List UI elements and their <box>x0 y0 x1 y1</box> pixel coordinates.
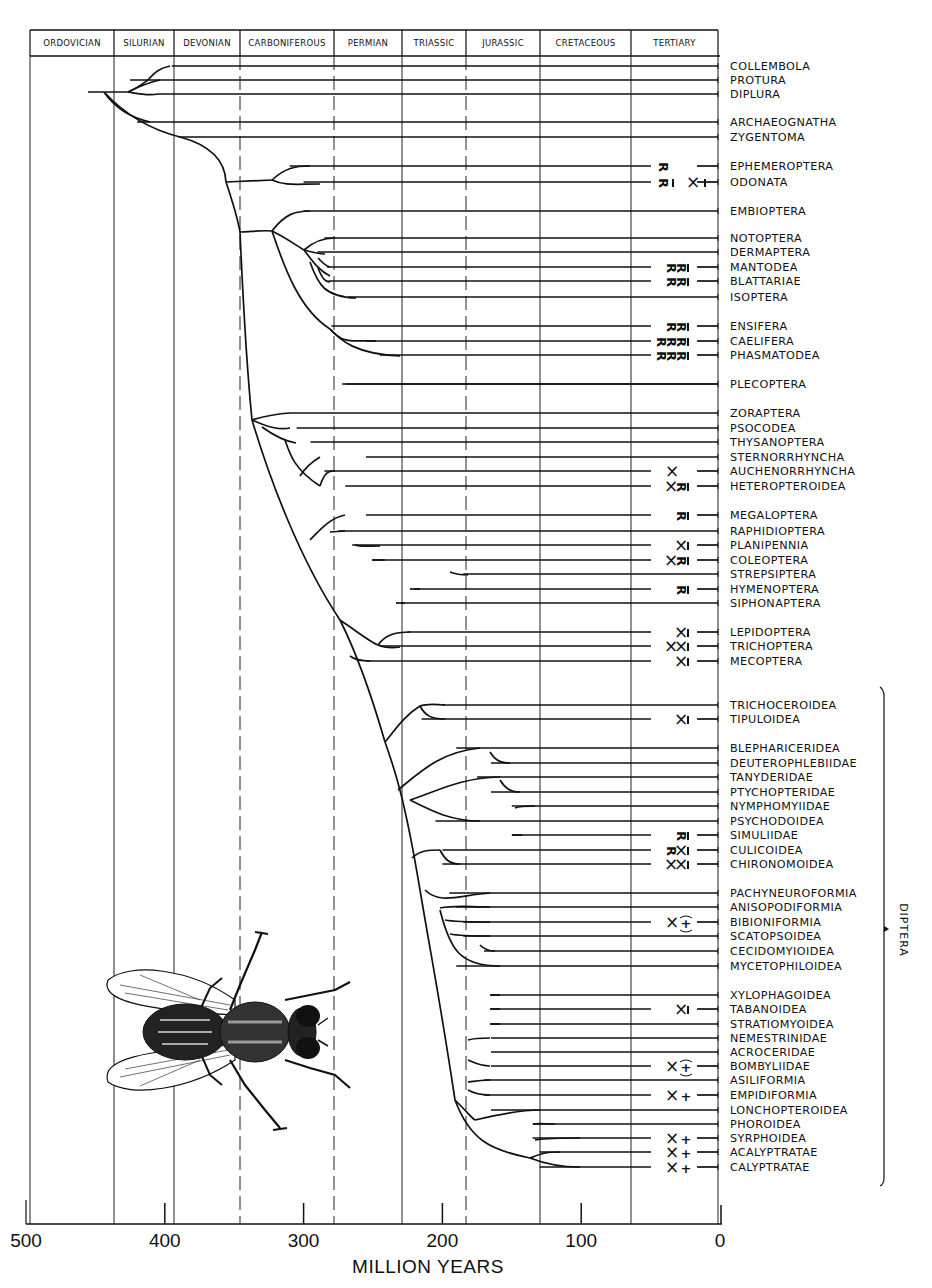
taxon-label: BLATTARIAE <box>730 275 801 288</box>
taxon-label: STREPSIPTERA <box>730 568 816 581</box>
period-label-silurian: SILURIAN <box>123 38 164 48</box>
taxon-label: BOMBYLIIDAE <box>730 1060 810 1073</box>
taxon-ensifera: ENSIFERA <box>331 320 787 333</box>
taxon-nemestrinidae: NEMESTRINIDAE <box>491 1032 827 1045</box>
axis-tick-label: 400 <box>149 1230 181 1251</box>
taxon-empidiformia: EMPIDIFORMIA <box>484 1089 817 1102</box>
taxon-cecidomyioidea: CECIDOMYIOIDEA <box>484 945 834 958</box>
taxon-label: SCATOPSOIDEA <box>730 930 821 943</box>
taxon-zygentoma: ZYGENTOMA <box>179 131 805 144</box>
taxon-label: MEGALOPTERA <box>730 509 818 522</box>
taxon-label: ENSIFERA <box>730 320 788 333</box>
taxon-raphidioptera: RAPHIDIOPTERA <box>338 525 825 538</box>
taxon-label: CECIDOMYIOIDEA <box>730 945 834 958</box>
taxon-label: CHIRONOMOIDEA <box>730 858 834 871</box>
taxon-culicoidea: CULICOIDEA <box>442 844 802 857</box>
taxon-coleoptera: COLEOPTERA <box>373 554 808 567</box>
taxon-label: SIMULIIDAE <box>730 829 798 842</box>
x-marker-icon: × <box>674 999 688 1019</box>
taxon-label: BIBIONIFORMIA <box>730 916 821 929</box>
taxon-label: HYMENOPTERA <box>730 583 819 596</box>
taxon-odonata: ODONATA <box>304 176 788 189</box>
taxon-label: BLEPHARICERIDEA <box>730 742 840 755</box>
plus-marker-icon: + <box>681 1132 692 1147</box>
x-marker-icon: × <box>686 172 700 192</box>
taxon-label: HETEROPTEROIDEA <box>730 480 846 493</box>
plus-marker-icon: + <box>681 916 692 931</box>
period-label-carboniferous: CARBONIFEROUS <box>248 38 325 48</box>
plus-marker-icon: + <box>681 1060 692 1075</box>
taxon-label: TIPULOIDEA <box>729 713 800 726</box>
taxon-label: AUCHENORRHYNCHA <box>730 465 855 478</box>
taxon-chironomoidea: CHIRONOMOIDEA <box>442 858 833 871</box>
taxon-label: ANISOPODIFORMIA <box>730 901 842 914</box>
r-marker-icon: R <box>674 351 689 361</box>
taxon-label: NYMPHOMYIIDAE <box>730 800 830 813</box>
taxon-label: ACROCERIDAE <box>730 1046 815 1059</box>
r-marker-icon: R <box>674 277 689 287</box>
taxon-label: ASILIFORMIA <box>730 1074 806 1087</box>
x-marker-icon: × <box>674 709 688 729</box>
taxon-label: EPHEMEROPTERA <box>730 160 833 173</box>
taxon-stratiomyoidea: STRATIOMYOIDEA <box>491 1018 834 1031</box>
fly-illustration-icon <box>107 932 350 1130</box>
taxon-plecoptera: PLECOPTERA <box>345 378 806 391</box>
taxon-mantodea: MANTODEA <box>327 261 798 274</box>
diptera-label: DIPTERA <box>897 903 910 957</box>
taxon-label: EMBIOPTERA <box>730 205 806 218</box>
x-marker-icon: × <box>665 1157 679 1177</box>
taxon-lepidoptera: LEPIDOPTERA <box>408 626 811 639</box>
taxon-label: STRATIOMYOIDEA <box>730 1018 834 1031</box>
geologic-period-header: ORDOVICIANSILURIANDEVONIANCARBONIFEROUSP… <box>30 30 720 56</box>
taxon-label: TRICHOPTERA <box>729 640 813 653</box>
taxon-label: RAPHIDIOPTERA <box>730 525 825 538</box>
taxon-anisopodiformia: ANISOPODIFORMIA <box>456 901 842 914</box>
taxon-sternorrhyncha: STERNORRHYNCHA <box>366 451 845 464</box>
taxon-simuliidae: SIMULIIDAE <box>512 829 798 842</box>
taxon-lonchopteroidea: LONCHOPTEROIDEA <box>491 1104 848 1117</box>
taxon-phasmatodea: PHASMATODEA <box>380 349 820 362</box>
taxon-ptychopteridae: PTYCHOPTERIDAE <box>491 786 835 799</box>
taxon-label: ARCHAEOGNATHA <box>730 116 837 129</box>
taxon-label: NEMESTRINIDAE <box>730 1032 827 1045</box>
phylogeny-chart: ORDOVICIANSILURIANDEVONIANCARBONIFEROUSP… <box>0 0 932 1288</box>
taxon-label: TRICHOCEROIDEA <box>729 699 837 712</box>
taxon-ephemeroptera: EPHEMEROPTERA <box>290 160 834 173</box>
axis-tick-label: 100 <box>565 1230 597 1251</box>
taxon-pachyneuroformia: PACHYNEUROFORMIA <box>449 887 856 900</box>
taxon-label: CULICOIDEA <box>730 844 803 857</box>
r-marker-icon: R <box>674 556 689 566</box>
taxon-label: XYLOPHAGOIDEA <box>730 989 831 1002</box>
taxon-tabanoidea: TABANOIDEA <box>491 1003 807 1016</box>
r-marker-icon: R <box>674 337 689 347</box>
taxon-thysanoptera: THYSANOPTERA <box>311 436 825 449</box>
r-marker-icon: R <box>656 162 671 172</box>
taxon-strepsiptera: STREPSIPTERA <box>463 568 816 581</box>
taxon-archaeognatha: ARCHAEOGNATHA <box>137 116 837 129</box>
x-marker-icon: × <box>674 651 688 671</box>
plus-marker-icon: + <box>681 1089 692 1104</box>
taxon-tipuloidea: TIPULOIDEA <box>422 713 801 726</box>
taxon-label: ISOPTERA <box>730 291 788 304</box>
taxon-trichoptera: TRICHOPTERA <box>380 640 813 653</box>
period-label-jurassic: JURASSIC <box>481 38 524 48</box>
period-label-triassic: TRIASSIC <box>412 38 454 48</box>
taxon-diplura: DIPLURA <box>158 88 780 101</box>
x-marker-icon: × <box>674 854 688 874</box>
taxon-megaloptera: MEGALOPTERA <box>366 509 818 522</box>
taxon-mecoptera: MECOPTERA <box>366 655 803 668</box>
r-marker-icon: R <box>674 585 689 595</box>
taxon-label: ZORAPTERA <box>730 407 801 420</box>
taxon-trichoceroidea: TRICHOCEROIDEA <box>442 699 836 712</box>
taxon-collembola: COLLEMBOLA <box>172 60 810 73</box>
taxon-label: PACHYNEUROFORMIA <box>730 887 857 900</box>
taxon-protura: PROTURA <box>130 74 786 87</box>
axis-tick-label: 300 <box>288 1230 320 1251</box>
axis-tick-label: 0 <box>715 1230 726 1251</box>
taxon-label: PHOROIDEA <box>730 1118 801 1131</box>
taxon-label: TABANOIDEA <box>729 1003 807 1016</box>
taxon-label: PLANIPENNIA <box>730 539 808 552</box>
taxon-label: PLECOPTERA <box>730 378 806 391</box>
taxon-deuterophlebiidae: DEUTEROPHLEBIIDAE <box>491 757 857 770</box>
taxon-notoptera: NOTOPTERA <box>324 232 802 245</box>
